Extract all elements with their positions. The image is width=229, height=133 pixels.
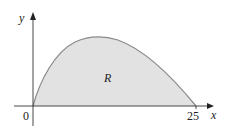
x-tick-label-25: 25 [187,109,199,123]
y-axis-label: y [18,11,25,25]
x-tick-label-0: 0 [23,109,29,123]
y-axis-arrow-icon [30,12,36,20]
region-r-fill [33,37,196,106]
region-label: R [103,71,112,85]
chart: y x 0 25 R [0,0,229,133]
x-axis-label: x [210,108,217,122]
